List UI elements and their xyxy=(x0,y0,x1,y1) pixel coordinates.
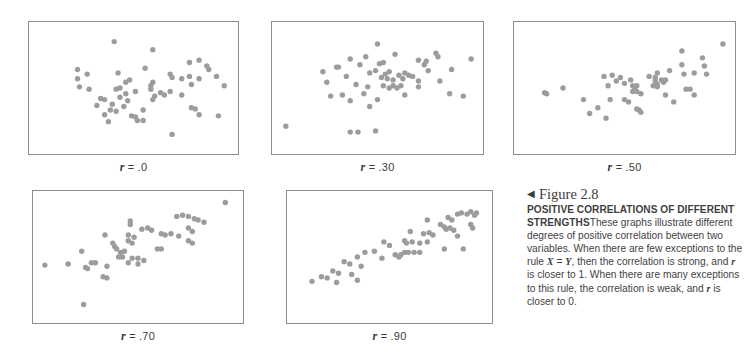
data-point xyxy=(122,249,127,254)
data-point xyxy=(121,104,126,109)
data-point xyxy=(679,48,684,53)
data-point xyxy=(139,226,144,231)
data-point xyxy=(149,228,154,233)
data-point xyxy=(186,214,191,219)
data-point xyxy=(581,97,586,102)
data-point xyxy=(336,64,341,69)
data-point xyxy=(367,70,372,75)
r-value: = .0 xyxy=(128,161,147,173)
data-point xyxy=(106,119,111,124)
scatter-plot-r30 xyxy=(271,21,484,155)
data-point xyxy=(381,83,386,88)
data-point xyxy=(117,95,122,100)
data-point xyxy=(102,112,107,117)
data-point xyxy=(375,41,380,46)
panel-label-r0: r = .0 xyxy=(28,160,239,175)
data-point xyxy=(135,118,140,123)
data-point xyxy=(634,83,639,88)
data-point xyxy=(190,229,195,234)
caption-text-2: , then the correlation is strong, and xyxy=(571,256,731,267)
data-point xyxy=(655,82,660,87)
data-point xyxy=(135,261,140,266)
data-point xyxy=(113,109,118,114)
data-point xyxy=(162,92,167,97)
data-point xyxy=(140,107,145,112)
r-symbol: r xyxy=(373,329,378,343)
data-point xyxy=(93,260,98,265)
data-point xyxy=(129,255,134,260)
data-point xyxy=(468,56,473,61)
data-point xyxy=(216,113,221,118)
data-point xyxy=(349,272,354,277)
data-point xyxy=(187,74,192,79)
data-point xyxy=(681,71,686,76)
data-point xyxy=(355,278,360,283)
data-point xyxy=(169,75,174,80)
panel-label-r90: r = .90 xyxy=(286,329,493,344)
data-point xyxy=(451,228,456,233)
data-point xyxy=(470,225,475,230)
data-point xyxy=(340,92,345,97)
data-point xyxy=(618,75,623,80)
data-point xyxy=(320,69,325,74)
data-point xyxy=(75,67,80,72)
data-point xyxy=(646,74,651,79)
data-point xyxy=(379,255,384,260)
data-point xyxy=(167,89,172,94)
data-point xyxy=(587,111,592,116)
data-point xyxy=(75,76,80,81)
data-point xyxy=(392,52,397,57)
data-point xyxy=(176,233,181,238)
data-point xyxy=(416,57,421,62)
data-point xyxy=(381,60,386,65)
r-value: = .50 xyxy=(616,161,642,173)
data-point xyxy=(610,73,615,78)
r-value: = .70 xyxy=(129,330,155,342)
data-point xyxy=(174,214,179,219)
data-point xyxy=(126,260,131,265)
figure-number: Figure 2.8 xyxy=(539,186,599,202)
data-point xyxy=(189,82,194,87)
data-point xyxy=(373,128,378,133)
data-point xyxy=(416,78,421,83)
data-point xyxy=(455,233,460,238)
data-point xyxy=(169,132,174,137)
data-point xyxy=(603,115,608,120)
data-point xyxy=(187,60,192,65)
data-point xyxy=(704,71,709,76)
data-point xyxy=(426,68,431,73)
data-point xyxy=(404,240,409,245)
data-point xyxy=(115,70,120,75)
data-point xyxy=(628,77,633,82)
data-point xyxy=(133,89,138,94)
panel-label-r70: r = .70 xyxy=(32,329,244,344)
data-point xyxy=(117,85,122,90)
data-point xyxy=(196,76,201,81)
data-point xyxy=(150,47,155,52)
data-point xyxy=(605,83,610,88)
data-point xyxy=(135,255,140,260)
data-point xyxy=(365,84,370,89)
data-point xyxy=(347,261,352,266)
scatter-panel-r0 xyxy=(28,21,239,155)
data-point xyxy=(324,275,329,280)
data-point xyxy=(425,217,430,222)
data-point xyxy=(141,258,146,263)
data-point xyxy=(398,252,403,257)
data-point xyxy=(355,254,360,259)
data-point xyxy=(362,250,367,255)
data-point xyxy=(406,250,411,255)
data-point xyxy=(663,77,668,82)
data-point xyxy=(595,105,600,110)
data-point xyxy=(131,235,136,240)
data-point xyxy=(402,92,407,97)
data-point xyxy=(123,91,128,96)
data-point xyxy=(459,210,464,215)
data-point xyxy=(373,68,378,73)
data-point xyxy=(447,91,452,96)
data-point xyxy=(430,232,435,237)
r-value: = .30 xyxy=(369,161,395,173)
scatter-panel-r50 xyxy=(513,21,736,155)
scatter-plot-r50 xyxy=(513,21,736,155)
data-point xyxy=(442,246,447,251)
